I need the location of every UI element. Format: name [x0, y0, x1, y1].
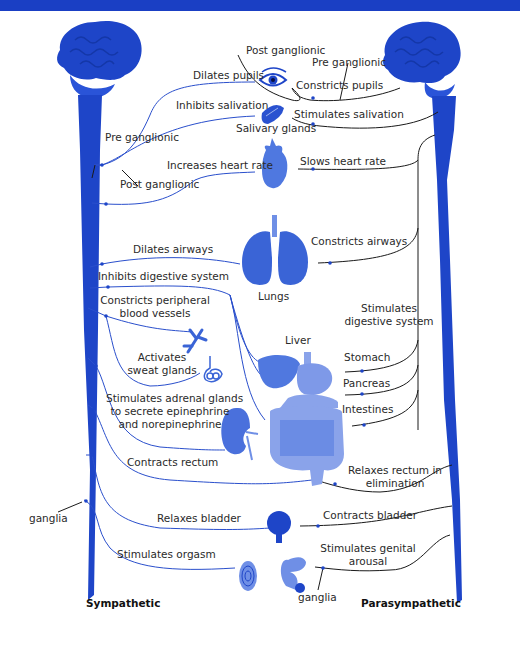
label-slows-heart-rate: Slows heart rate: [300, 155, 386, 168]
label-stomach: Stomach: [344, 351, 390, 364]
label-ganglia-right: ganglia: [298, 591, 337, 604]
lungs-icon: [242, 215, 308, 285]
label-relaxes-rectum: Relaxes rectum in elimination: [344, 464, 446, 490]
label-inhibits-digestive: Inhibits digestive system: [98, 270, 229, 283]
label-contracts-bladder: Contracts bladder: [323, 509, 417, 522]
label-adrenal: Stimulates adrenal glands to secrete epi…: [106, 392, 234, 431]
label-inhibits-salivation: Inhibits salivation: [176, 99, 268, 112]
label-parasympathetic: Parasympathetic: [361, 597, 461, 610]
label-constricts-airways: Constricts airways: [311, 235, 407, 248]
liver-stomach-intestines-icon: [258, 352, 344, 486]
sweat-gland-icon: [204, 356, 222, 382]
label-increases-heart-rate: Increases heart rate: [167, 159, 273, 172]
label-ganglia-left: ganglia: [29, 512, 68, 525]
label-dilates-pupils: Dilates pupils: [193, 69, 264, 82]
label-contracts-rectum: Contracts rectum: [127, 456, 218, 469]
label-sympathetic: Sympathetic: [86, 597, 160, 610]
label-pre-ganglionic-top: Pre ganglionic: [312, 56, 386, 69]
label-stimulates-salivation: Stimulates salivation: [294, 108, 404, 121]
label-stimulates-digestive: Stimulates digestive system: [330, 302, 448, 328]
label-constricts-vessels: Constricts peripheral blood vessels: [100, 294, 210, 320]
label-activates-sweat: Activates sweat glands: [122, 351, 202, 377]
label-stimulates-genital: Stimulates genital arousal: [318, 542, 418, 568]
label-intestines: Intestines: [342, 403, 393, 416]
penis-icon: [281, 557, 306, 593]
uterus-icon: [239, 561, 257, 591]
label-constricts-pupils: Constricts pupils: [296, 79, 383, 92]
label-pancreas: Pancreas: [343, 377, 390, 390]
label-lungs: Lungs: [258, 290, 289, 303]
label-pre-ganglionic-left: Pre ganglionic: [105, 131, 179, 144]
label-salivary-glands: Salivary glands: [236, 122, 316, 135]
bladder-icon: [267, 511, 291, 543]
label-liver: Liver: [285, 334, 311, 347]
blood-vessel-icon: [184, 330, 206, 352]
label-post-ganglionic-left: Post ganglionic: [120, 178, 199, 191]
label-dilates-airways: Dilates airways: [133, 243, 213, 256]
label-stimulates-orgasm: Stimulates orgasm: [117, 548, 216, 561]
label-relaxes-bladder: Relaxes bladder: [157, 512, 241, 525]
